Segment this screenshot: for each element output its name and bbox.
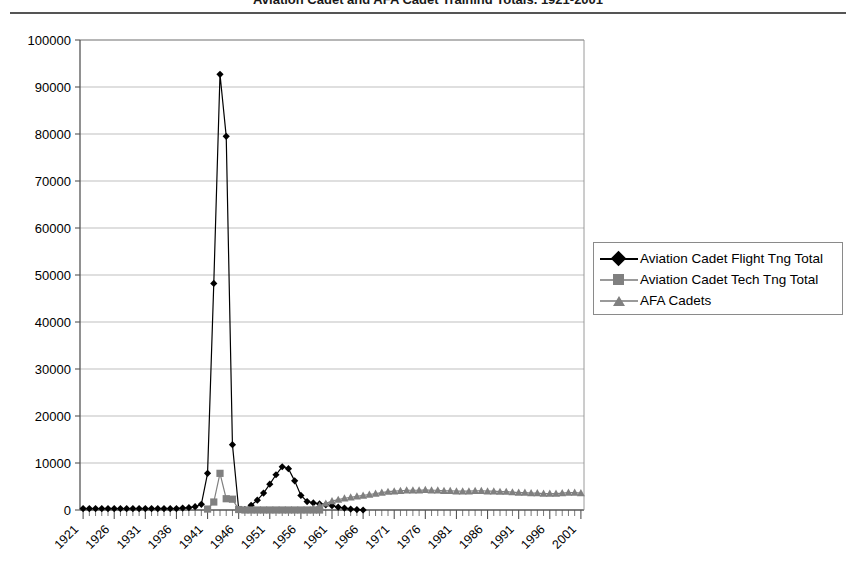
chart-legend: Aviation Cadet Flight Tng Total Aviation… xyxy=(593,242,843,315)
y-axis-tick-label: 100000 xyxy=(28,33,71,48)
x-axis-tick-label: 1926 xyxy=(83,522,113,552)
chart-container: Aviation Cadet and AFA Cadet Training To… xyxy=(0,0,856,561)
y-axis-tick-label: 30000 xyxy=(35,362,71,377)
x-axis-tick-label: 1996 xyxy=(518,522,548,552)
y-axis-tick-label: 90000 xyxy=(35,80,71,95)
x-axis-tick-label: 1931 xyxy=(114,522,144,552)
legend-item[interactable]: AFA Cadets xyxy=(598,290,842,311)
y-axis-tick-label: 80000 xyxy=(35,127,71,142)
y-axis-tick-label: 40000 xyxy=(35,315,71,330)
y-axis-tick-label: 0 xyxy=(64,503,71,518)
x-axis-tick-label: 1951 xyxy=(238,522,268,552)
square-marker-icon xyxy=(598,271,640,289)
diamond-marker-icon xyxy=(598,250,640,268)
legend-item[interactable]: Aviation Cadet Tech Tng Total xyxy=(598,269,842,290)
y-axis-tick-label: 10000 xyxy=(35,456,71,471)
x-axis-tick-label: 1961 xyxy=(301,522,331,552)
x-axis-tick-label: 1991 xyxy=(487,522,517,552)
legend-item-label: AFA Cadets xyxy=(640,294,711,308)
x-axis-tick-label: 1941 xyxy=(176,522,206,552)
y-axis-tick-label: 50000 xyxy=(35,268,71,283)
y-axis-tick-label: 20000 xyxy=(35,409,71,424)
legend-item-label: Aviation Cadet Flight Tng Total xyxy=(640,252,823,266)
x-axis-tick-label: 1981 xyxy=(425,522,455,552)
x-axis-tick-label: 1986 xyxy=(456,522,486,552)
x-axis-tick-label: 1946 xyxy=(207,522,237,552)
legend-item-label: Aviation Cadet Tech Tng Total xyxy=(640,273,818,287)
x-axis-tick-label: 1936 xyxy=(145,522,175,552)
x-axis-tick-label: 1921 xyxy=(52,522,82,552)
y-axis-tick-label: 70000 xyxy=(35,174,71,189)
x-axis-tick-label: 2001 xyxy=(549,522,579,552)
x-axis-tick-label: 1971 xyxy=(363,522,393,552)
triangle-marker-icon xyxy=(598,292,640,310)
x-axis-tick-label: 1956 xyxy=(269,522,299,552)
x-axis-tick-label: 1976 xyxy=(394,522,424,552)
legend-item[interactable]: Aviation Cadet Flight Tng Total xyxy=(598,248,842,269)
y-axis-tick-label: 60000 xyxy=(35,221,71,236)
x-axis-tick-label: 1966 xyxy=(332,522,362,552)
